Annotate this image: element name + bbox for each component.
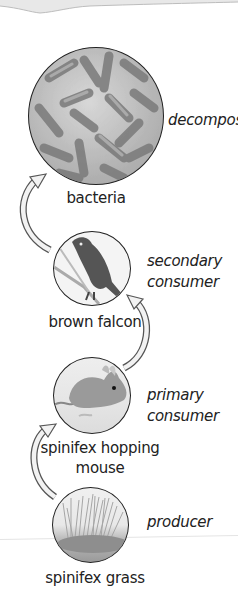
energy-flow-arrows: [0, 0, 238, 610]
food-chain-diagram: bacteria decomposer brown falcon seconda…: [0, 0, 238, 610]
arrow-mouse-to-falcon: [124, 295, 147, 368]
arrow-grass-to-mouse: [34, 424, 56, 497]
arrow-falcon-to-bacteria: [23, 174, 50, 250]
